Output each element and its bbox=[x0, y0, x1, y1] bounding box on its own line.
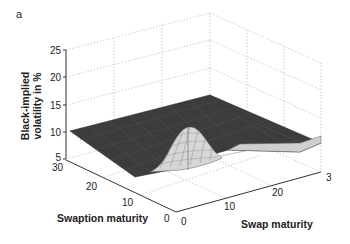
volatility-surface bbox=[70, 95, 321, 177]
swap-tick-10: 10 bbox=[224, 201, 236, 212]
swaption-axis-label: Swaption maturity bbox=[57, 212, 148, 224]
surface-plot: 25 20 15 10 5 30 20 10 0 0 10 20 3 Black… bbox=[0, 0, 350, 244]
swap-axis-label: Swap maturity bbox=[241, 218, 313, 230]
z-axis-label-line2: volatility in % bbox=[31, 72, 43, 140]
swap-tick-20: 20 bbox=[272, 187, 284, 198]
z-axis-label: Black-implied volatility in % bbox=[19, 72, 43, 140]
z-axis-label-line1: Black-implied bbox=[19, 72, 31, 140]
swap-tick-0: 0 bbox=[181, 216, 187, 227]
z-tick-25: 25 bbox=[50, 45, 62, 56]
swap-axis bbox=[176, 172, 321, 212]
swaption-tick-30: 30 bbox=[52, 162, 64, 173]
swaption-tick-0: 0 bbox=[164, 213, 170, 224]
z-tick-10: 10 bbox=[50, 127, 62, 138]
swaption-tick-10: 10 bbox=[122, 197, 134, 208]
z-tick-15: 15 bbox=[50, 100, 62, 111]
chart-figure: a bbox=[0, 0, 350, 244]
z-tick-20: 20 bbox=[50, 72, 62, 83]
swap-tick-30: 3 bbox=[326, 172, 332, 183]
swaption-tick-20: 20 bbox=[86, 181, 98, 192]
z-axis bbox=[63, 50, 66, 159]
